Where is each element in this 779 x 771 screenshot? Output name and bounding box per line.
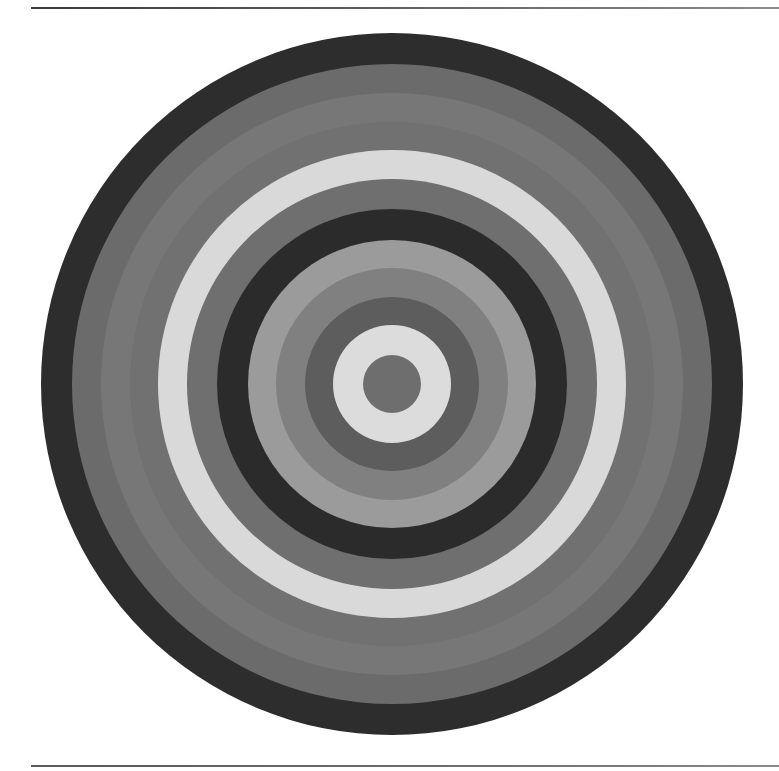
concentric-circles-target <box>0 0 779 771</box>
ring-12 <box>363 355 421 413</box>
bottom-rule-line <box>31 765 779 767</box>
